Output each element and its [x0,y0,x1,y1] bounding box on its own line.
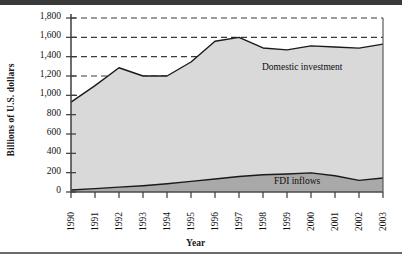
x-tick-label: 1993 [138,212,148,231]
y-tick-label: 800 [19,108,61,118]
x-tick-label: 1995 [186,212,196,231]
y-axis-title: Billions of U.S. dollars [6,52,16,168]
chart-figure: Billions of U.S. dollars Year 0200400600… [0,0,402,258]
x-tick-label: 1991 [90,212,100,231]
x-tick-label: 1998 [258,212,268,231]
y-tick-label: 1,400 [19,50,61,60]
x-tick-label: 2000 [306,212,316,231]
x-tick-label: 1997 [234,212,244,231]
y-tick-label: 1,200 [19,69,61,79]
x-tick-label: 1994 [162,212,172,231]
x-tick-label: 2003 [378,212,388,231]
y-tick-label: 400 [19,146,61,156]
x-tick-label: 1990 [66,212,76,231]
x-axis-title: Year [186,238,205,248]
x-tick-label: 1996 [210,212,220,231]
y-tick-label: 1,800 [19,11,61,21]
y-tick-label: 1,600 [19,30,61,40]
x-tick-label: 2002 [354,212,364,231]
y-tick-label: 600 [19,127,61,137]
domestic-area-fill [71,37,383,192]
y-tick-label: 1,000 [19,88,61,98]
y-tick-label: 0 [19,185,61,195]
x-tick-label: 2001 [330,212,340,231]
x-tick-label: 1992 [114,212,124,231]
x-tick-label: 1999 [282,212,292,231]
area-domestic-investment [71,37,383,192]
series-label-domestic-investment: Domestic investment [262,62,342,72]
y-tick-label: 200 [19,166,61,176]
series-label-fdi-inflows: FDI inflows [274,176,320,186]
